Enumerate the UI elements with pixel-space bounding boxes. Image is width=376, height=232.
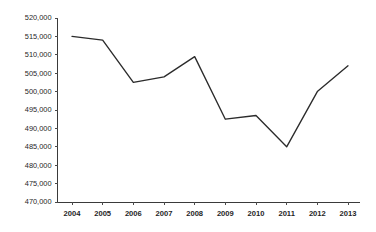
series-line [72, 36, 348, 146]
x-tick-label: 2010 [248, 209, 265, 218]
x-tick-label: 2006 [125, 209, 142, 218]
y-axis: 470,000475,000480,000485,000490,000495,0… [25, 13, 58, 206]
x-tick-label: 2007 [156, 209, 173, 218]
x-tick-label: 2005 [94, 209, 112, 218]
x-tick-label-group: 2004200520062007200820092010201120122013 [64, 209, 357, 218]
y-tick-label: 475,000 [25, 179, 52, 188]
x-axis: 2004200520062007200820092010201120122013 [58, 202, 361, 218]
x-tick-label: 2004 [64, 209, 82, 218]
y-tick-label: 480,000 [25, 161, 52, 170]
y-tick-label: 470,000 [25, 197, 52, 206]
data-series-group [72, 36, 348, 146]
y-tick-label: 495,000 [25, 105, 52, 114]
y-tick-label: 485,000 [25, 142, 52, 151]
x-tick-label: 2011 [278, 209, 295, 218]
x-tick-label: 2008 [186, 209, 203, 218]
y-tick-label: 520,000 [25, 13, 52, 22]
y-tick-label: 515,000 [25, 32, 52, 41]
chart-canvas: 470,000475,000480,000485,000490,000495,0… [0, 0, 376, 232]
y-tick-label-group: 470,000475,000480,000485,000490,000495,0… [25, 13, 52, 206]
x-tick-label: 2012 [309, 209, 326, 218]
y-tick-label: 510,000 [25, 50, 52, 59]
x-tick-label: 2009 [217, 209, 234, 218]
line-chart: 470,000475,000480,000485,000490,000495,0… [0, 0, 376, 232]
y-tick-label: 505,000 [25, 69, 52, 78]
x-tick-label: 2013 [340, 209, 357, 218]
y-tick-label: 490,000 [25, 124, 52, 133]
y-tick-label: 500,000 [25, 87, 52, 96]
